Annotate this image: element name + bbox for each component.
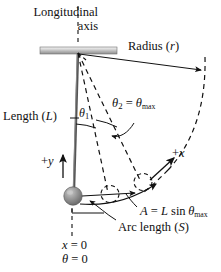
amplitude-equals: = bbox=[148, 204, 161, 218]
longitudinal-axis-line-1: Longitudinal bbox=[33, 5, 98, 19]
amplitude-theta-subscript: max bbox=[194, 210, 207, 219]
amplitude-A-symbol: A bbox=[140, 204, 148, 218]
plus-y-sign: + bbox=[41, 154, 48, 168]
length-label-close: ) bbox=[53, 109, 57, 123]
pendulum-rod bbox=[73, 53, 78, 190]
pendulum-bob bbox=[64, 187, 82, 205]
plus-x-axis-arrow bbox=[150, 158, 174, 180]
pendulum-diagram: Longitudinal axis Radius (r) θ2 = θmax L… bbox=[0, 0, 221, 272]
arc-length-leader bbox=[72, 201, 116, 220]
length-label: Length (L) bbox=[3, 110, 57, 124]
longitudinal-axis-line-2: axis bbox=[78, 19, 98, 33]
plus-x-label: +x bbox=[172, 147, 185, 161]
radius-label-text: Radius ( bbox=[128, 39, 170, 53]
plus-y-symbol: y bbox=[48, 154, 54, 168]
theta2-label: θ2 = θmax bbox=[112, 97, 155, 111]
plus-y-label: +y bbox=[41, 155, 54, 169]
theta1-label: θ1 bbox=[79, 107, 89, 120]
theta2-subscript: 2 bbox=[118, 101, 122, 111]
radius-label: Radius (r) bbox=[128, 40, 179, 54]
amplitude-leader bbox=[126, 194, 137, 207]
amplitude-equation-label: A = L sin θmax bbox=[140, 205, 208, 219]
plus-x-symbol: x bbox=[179, 146, 185, 160]
theta-zero-label: θ = 0 bbox=[62, 253, 88, 267]
x-zero-label: x = 0 bbox=[62, 239, 87, 253]
arc-length-close: ) bbox=[185, 220, 189, 234]
theta2-equals: = bbox=[123, 96, 136, 110]
plus-x-sign: + bbox=[172, 146, 179, 160]
amplitude-L-symbol: L bbox=[161, 204, 168, 218]
length-symbol: L bbox=[46, 109, 53, 123]
dashed-string-theta1 bbox=[78, 53, 108, 193]
radius-arc bbox=[144, 57, 205, 192]
arc-length-label: Arc length (S) bbox=[118, 221, 189, 235]
radius-label-close: ) bbox=[175, 39, 179, 53]
arc-length-text: Arc length ( bbox=[118, 220, 178, 234]
x-zero-rest: = 0 bbox=[68, 238, 88, 252]
theta-max-subscript: max bbox=[142, 102, 155, 111]
theta-zero-rest: = 0 bbox=[68, 252, 88, 266]
amplitude-sin: sin bbox=[168, 204, 188, 218]
radius-arrow bbox=[79, 54, 201, 70]
length-label-text: Length ( bbox=[3, 109, 46, 123]
theta1-subscript: 1 bbox=[85, 112, 89, 121]
longitudinal-axis-label: Longitudinal axis bbox=[2, 6, 98, 33]
